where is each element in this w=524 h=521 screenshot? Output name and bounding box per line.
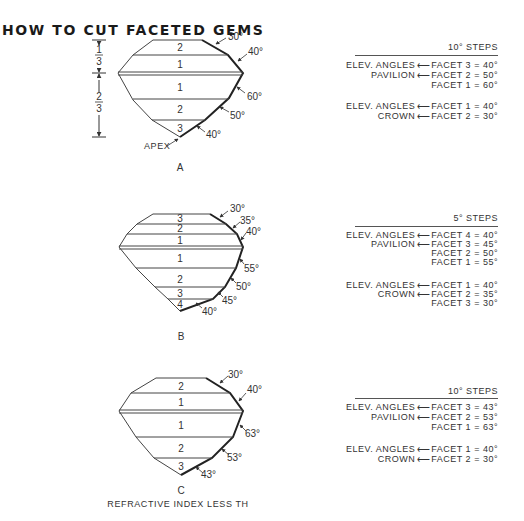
gem-c-crown-facet-2: 2 <box>178 381 184 392</box>
gem-b-pavilion-facet-4: 4 <box>177 299 183 310</box>
gem-a-angle-40-pavilion: 40° <box>206 129 221 140</box>
gem-b-pavilion-facet-3: 3 <box>177 288 183 299</box>
proportion-top-den: 3 <box>96 56 102 67</box>
table-a-pavilion-row-2: PAVILION⟵FACET 2 = 50° <box>371 70 498 80</box>
gem-b-label: B <box>178 331 185 342</box>
gem-b-pavilion-facet-2: 2 <box>177 274 183 285</box>
gem-c-caption: REFRACTIVE INDEX LESS TH <box>107 499 248 509</box>
angle-table-a: 10° STEPS ELEV. ANGLES⟵FACET 3 = 40° PAV… <box>355 40 498 125</box>
table-b-pavilion-row-4: FACET 1 = 55° <box>431 257 498 267</box>
gem-a-pavilion-facet-1: 1 <box>177 82 183 93</box>
gem-a-crown-facet-1: 1 <box>177 59 183 70</box>
gem-c-pavilion-facet-1: 1 <box>178 420 184 431</box>
gem-b: 3 2 1 1 2 3 4 30° 35° 40° 55° 50° 45° 40… <box>119 203 261 342</box>
gem-c-angle-53: 53° <box>227 452 242 463</box>
apex-label: APEX <box>144 141 170 151</box>
gem-c: 2 1 1 2 3 30° 40° 63° 53° 43° C REFRACTI… <box>107 369 262 509</box>
gem-a-pavilion-facet-2: 2 <box>177 104 183 115</box>
gem-b-angle-55: 55° <box>244 263 259 274</box>
gem-b-angle-45: 45° <box>222 295 237 306</box>
gem-b-crown-facet-1: 1 <box>177 235 183 246</box>
gem-c-angle-30: 30° <box>228 369 243 380</box>
gem-b-angle-35: 35° <box>240 215 255 226</box>
gem-c-angle-43: 43° <box>201 469 216 480</box>
angle-table-b: 5° STEPS ELEV. ANGLES⟵FACET 4 = 40° PAVI… <box>355 211 498 311</box>
gem-b-crown-facet-2: 2 <box>177 223 183 234</box>
proportion-bottom-den: 3 <box>96 103 102 114</box>
table-a-crown-row-1: ELEV. ANGLES⟵FACET 1 = 40° <box>346 101 498 111</box>
table-c-pavilion-row-1: ELEV. ANGLES⟵FACET 3 = 43° <box>346 402 498 412</box>
gem-a: 1 3 2 3 2 1 1 2 3 30° 40° 60° 50° <box>92 31 263 173</box>
table-a-pavilion-row-1: ELEV. ANGLES⟵FACET 3 = 40° <box>346 60 498 70</box>
table-a-crown-row-2: CROWN⟵FACET 2 = 30° <box>378 111 498 121</box>
gem-b-angle-50: 50° <box>236 281 251 292</box>
table-c-crown-row-1: ELEV. ANGLES⟵FACET 1 = 40° <box>346 444 498 454</box>
gem-c-crown-facet-1: 1 <box>178 397 184 408</box>
table-c-rule <box>355 398 498 399</box>
gem-c-angle-40: 40° <box>247 384 262 395</box>
gem-a-angle-50: 50° <box>230 110 245 121</box>
gem-b-pavilion-facet-1: 1 <box>177 253 183 264</box>
gem-a-label: A <box>177 162 184 173</box>
table-c-header: 10° STEPS <box>448 386 498 396</box>
gem-c-angle-63: 63° <box>245 428 260 439</box>
gem-b-angle-40-crown: 40° <box>246 226 261 237</box>
table-b-rule <box>355 226 498 227</box>
gem-c-label: C <box>177 485 184 496</box>
table-c-crown-row-2: CROWN⟵FACET 2 = 30° <box>378 454 498 464</box>
table-b-header: 5° STEPS <box>453 213 498 223</box>
gem-a-angle-30: 30° <box>228 31 243 42</box>
angle-table-c: 10° STEPS ELEV. ANGLES⟵FACET 3 = 43° PAV… <box>355 384 498 469</box>
table-a-rule <box>355 55 498 56</box>
table-c-pavilion-row-3: FACET 1 = 63° <box>431 422 498 432</box>
table-a-pavilion-row-3: FACET 1 = 60° <box>431 80 498 90</box>
table-c-pavilion-row-2: PAVILION⟵FACET 2 = 53° <box>371 412 498 422</box>
proportion-bottom-num: 2 <box>96 91 102 102</box>
gem-c-pavilion-facet-3: 3 <box>178 461 184 472</box>
proportion-top-num: 1 <box>96 44 102 55</box>
table-a-header: 10° STEPS <box>448 42 498 52</box>
gem-b-angle-30: 30° <box>230 203 245 214</box>
gem-a-crown-facet-2: 2 <box>177 42 183 53</box>
gem-b-angle-40-pavilion: 40° <box>202 306 217 317</box>
gem-a-angle-60: 60° <box>247 91 262 102</box>
gem-a-angle-40-crown: 40° <box>248 46 263 57</box>
table-b-crown-row-3: FACET 3 = 30° <box>431 298 498 308</box>
gem-c-pavilion-facet-2: 2 <box>178 443 184 454</box>
gem-a-pavilion-facet-3: 3 <box>177 123 183 134</box>
